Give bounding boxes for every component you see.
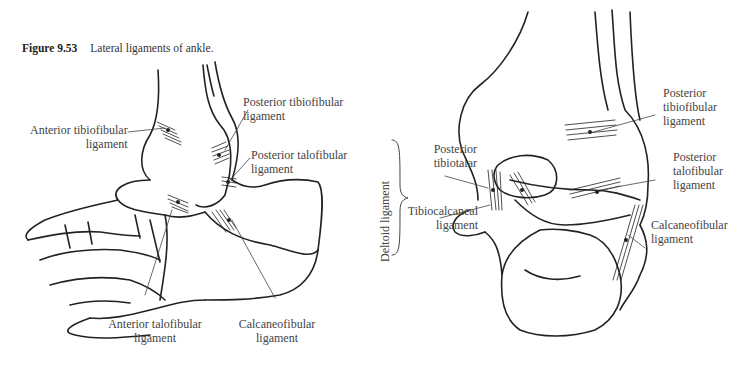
label-line: Calcaneofibular xyxy=(222,317,332,331)
label-posterior-talofibular-ligament-right: Posterior talofibular ligament xyxy=(673,150,723,192)
label-line: ligament xyxy=(90,331,220,345)
deltoid-brace xyxy=(392,140,408,255)
label-posterior-talofibular-ligament: Posterior talofibular ligament xyxy=(251,148,347,176)
right-posterior-view-drawing xyxy=(453,10,648,336)
label-line: ligament xyxy=(222,331,332,345)
label-posterior-tibiotalar: Posterior tibiotalar xyxy=(415,142,477,170)
label-line: ligament xyxy=(673,178,723,192)
deltoid-ligament-label: Deltoid ligament xyxy=(378,181,393,262)
label-line: talofibular xyxy=(673,164,723,178)
label-line: tibiofibular xyxy=(663,100,717,114)
label-line: Posterior tibiofibular xyxy=(243,95,343,109)
label-line: Tibiocalcaneal xyxy=(400,204,478,218)
label-anterior-tibiofibular-ligament: Anterior tibiofibular ligament xyxy=(30,123,128,151)
label-posterior-tibiofibular-ligament-right: Posterior tibiofibular ligament xyxy=(663,86,717,128)
label-calcaneofibular-ligament: Calcaneofibular ligament xyxy=(222,317,332,345)
label-line: Posterior talofibular xyxy=(251,148,347,162)
label-line: ligament xyxy=(663,114,717,128)
label-line: ligament xyxy=(30,137,128,151)
label-line: ligament xyxy=(400,218,478,232)
label-line: ligament xyxy=(243,109,343,123)
label-posterior-tibiofibular-ligament: Posterior tibiofibular ligament xyxy=(243,95,343,123)
label-line: tibiotalar xyxy=(415,156,477,170)
label-line: Posterior xyxy=(415,142,477,156)
label-line: ligament xyxy=(651,232,728,246)
label-tibiocalcaneal-ligament: Tibiocalcaneal ligament xyxy=(400,204,478,232)
right-ligament-hatching xyxy=(488,120,643,280)
label-line: ligament xyxy=(251,162,347,176)
label-line: Calcaneofibular xyxy=(651,218,728,232)
label-line: Posterior xyxy=(663,86,717,100)
ankle-illustration xyxy=(0,0,753,370)
label-line: Posterior xyxy=(673,150,723,164)
label-line: Anterior talofibular xyxy=(90,317,220,331)
label-calcaneofibular-ligament-right: Calcaneofibular ligament xyxy=(651,218,728,246)
label-line: Anterior tibiofibular xyxy=(30,123,128,137)
label-anterior-talofibular-ligament: Anterior talofibular ligament xyxy=(90,317,220,345)
